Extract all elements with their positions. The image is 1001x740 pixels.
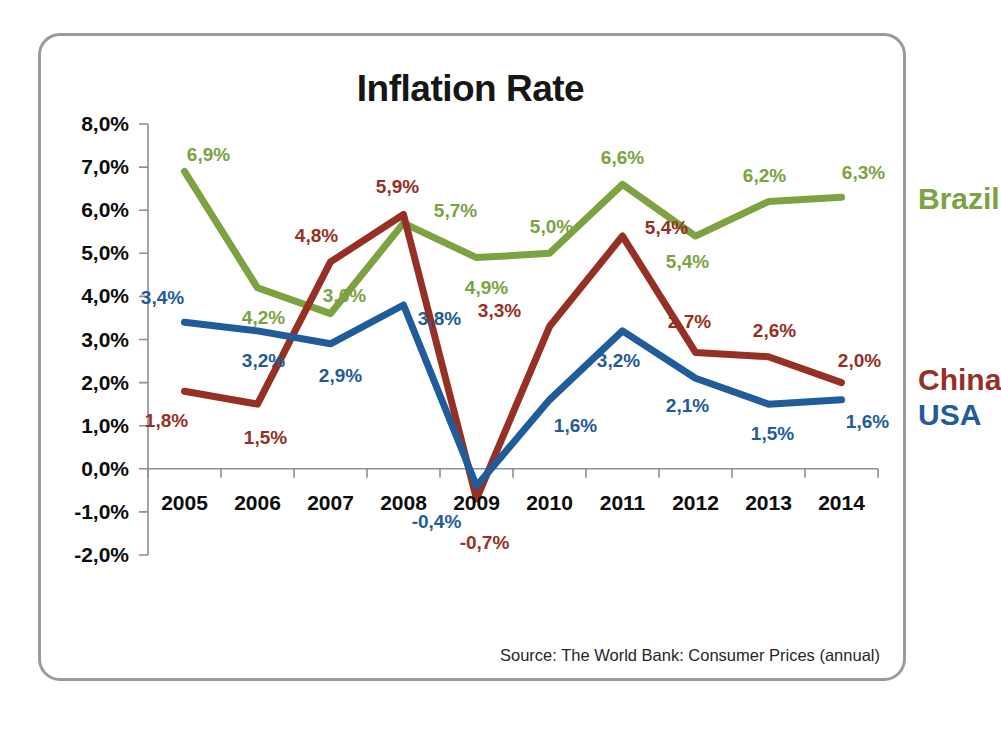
data-label-china-2008: 5,9%	[376, 176, 419, 198]
y-axis-tick-label: 4,0%	[43, 284, 129, 308]
data-label-brazil-2005: 6,9%	[187, 144, 230, 166]
series-label-brazil: Brazil	[918, 182, 1000, 216]
y-axis-tick-label: 2,0%	[43, 371, 129, 395]
source-note: Source: The World Bank: Consumer Prices …	[0, 646, 880, 665]
data-label-brazil-2010: 5,0%	[530, 216, 573, 238]
series-line-brazil	[185, 171, 842, 313]
y-axis-tick-label: 0,0%	[43, 457, 129, 481]
data-label-usa-2012: 2,1%	[666, 395, 709, 417]
data-label-china-2007: 4,8%	[295, 225, 338, 247]
x-axis-tick-label: 2007	[289, 491, 373, 515]
data-label-china-2006: 1,5%	[244, 427, 287, 449]
data-label-brazil-2009: 4,9%	[465, 277, 508, 299]
data-label-china-2014: 2,0%	[838, 350, 881, 372]
data-label-usa-2007: 2,9%	[319, 365, 362, 387]
data-label-brazil-2013: 6,2%	[743, 165, 786, 187]
data-label-brazil-2011: 6,6%	[601, 147, 644, 169]
data-label-china-2013: 2,6%	[753, 320, 796, 342]
y-axis-tick-label: 8,0%	[43, 112, 129, 136]
x-axis-tick-label: 2006	[216, 491, 300, 515]
y-axis-tick-label: -1,0%	[43, 500, 129, 524]
chart-title: Inflation Rate	[0, 68, 941, 110]
data-label-china-2012: 2,7%	[668, 311, 711, 333]
y-axis-tick-label: 5,0%	[43, 241, 129, 265]
data-label-usa-2006: 3,2%	[242, 350, 285, 372]
y-axis-tick-label: 7,0%	[43, 155, 129, 179]
data-label-usa-2008: 3,8%	[418, 308, 461, 330]
x-axis-tick-label: 2011	[581, 491, 665, 515]
x-axis-tick-label: 2013	[727, 491, 811, 515]
data-label-usa-2014: 1,6%	[846, 411, 889, 433]
data-label-china-2009: -0,7%	[460, 532, 510, 554]
x-axis-tick-label: 2012	[654, 491, 738, 515]
data-label-china-2005: 1,8%	[145, 410, 188, 432]
series-label-china: China	[918, 363, 1001, 397]
data-label-usa-2005: 3,4%	[141, 287, 184, 309]
data-label-brazil-2012: 5,4%	[666, 251, 709, 273]
series-label-usa: USA	[918, 398, 981, 432]
y-axis-tick-label: 6,0%	[43, 198, 129, 222]
y-axis-tick-label: -2,0%	[43, 543, 129, 567]
y-axis-tick-label: 1,0%	[43, 414, 129, 438]
x-axis-tick-label: 2010	[508, 491, 592, 515]
series-line-usa	[185, 305, 842, 486]
x-axis-tick-label: 2014	[800, 491, 884, 515]
data-label-usa-2013: 1,5%	[751, 423, 794, 445]
data-label-brazil-2014: 6,3%	[842, 162, 885, 184]
data-label-china-2011: 5,4%	[645, 217, 688, 239]
y-axis-tick-label: 3,0%	[43, 328, 129, 352]
data-label-brazil-2008: 5,7%	[434, 200, 477, 222]
data-label-usa-2009: -0,4%	[412, 511, 462, 533]
data-label-brazil-2007: 3,6%	[323, 285, 366, 307]
data-label-usa-2011: 3,2%	[597, 350, 640, 372]
x-axis-tick-label: 2005	[143, 491, 227, 515]
data-label-usa-2010: 1,6%	[554, 415, 597, 437]
data-label-brazil-2006: 4,2%	[242, 307, 285, 329]
data-label-china-2010: 3,3%	[478, 300, 521, 322]
